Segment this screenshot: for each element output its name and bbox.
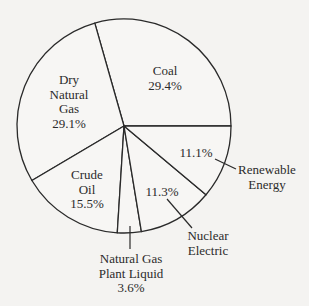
label-coal-name: Coal: [140, 64, 190, 79]
label-nuclear-value: 11.3%: [142, 185, 182, 200]
label-coal: Coal 29.4%: [140, 64, 190, 93]
label-nuclear-line2: Electric: [183, 244, 233, 259]
label-ngpl-line2: Plant Liquid: [91, 267, 171, 282]
label-ngpl-line1: Natural Gas: [91, 252, 171, 267]
renewable-pct-text: 11.1%: [176, 146, 216, 161]
label-crude-line1: Crude: [62, 168, 112, 183]
label-renewable-energy: Renewable Energy: [232, 163, 302, 192]
label-renewable-line1: Renewable: [232, 163, 302, 178]
label-dry-natural-gas: Dry Natural Gas 29.1%: [44, 73, 94, 131]
label-dry-gas-line1: Dry: [44, 73, 94, 88]
label-nuclear-line1: Nuclear: [183, 229, 233, 244]
nuclear-pct-text: 11.3%: [142, 185, 182, 200]
label-crude-value: 15.5%: [62, 197, 112, 212]
label-dry-gas-line2: Natural: [44, 88, 94, 103]
label-dry-gas-value: 29.1%: [44, 117, 94, 132]
label-dry-gas-line3: Gas: [44, 102, 94, 117]
label-crude-line2: Oil: [62, 183, 112, 198]
label-natural-gas-plant-liquid: Natural Gas Plant Liquid 3.6%: [91, 252, 171, 296]
label-ngpl-value: 3.6%: [91, 281, 171, 296]
label-crude-oil: Crude Oil 15.5%: [62, 168, 112, 212]
label-nuclear-electric: Nuclear Electric: [183, 229, 233, 258]
label-coal-value: 29.4%: [140, 79, 190, 94]
label-renewable-value: 11.1%: [176, 146, 216, 161]
label-renewable-line2: Energy: [232, 178, 302, 193]
